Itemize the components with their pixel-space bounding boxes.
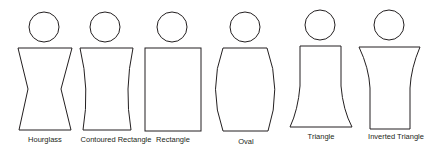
oval-body bbox=[216, 48, 275, 131]
figure-label: Rectangle bbox=[156, 135, 190, 144]
head-circle bbox=[90, 12, 120, 42]
head-circle bbox=[29, 12, 59, 42]
hourglass-body bbox=[18, 48, 72, 130]
head-circle bbox=[305, 10, 335, 40]
figure-rectangle: Rectangle bbox=[145, 12, 201, 144]
body-shapes-diagram: Hourglass Contoured Rectangle Rectangle … bbox=[0, 0, 438, 150]
head-circle bbox=[230, 12, 260, 42]
head-circle bbox=[374, 10, 404, 40]
figure-label: Contoured Rectangle bbox=[81, 135, 152, 144]
figure-label: Inverted Triangle bbox=[368, 132, 424, 141]
figure-label: Oval bbox=[238, 137, 254, 146]
figure-oval: Oval bbox=[216, 12, 275, 146]
figure-contoured-rectangle: Contoured Rectangle bbox=[80, 12, 151, 144]
contoured-rectangle-body bbox=[80, 48, 133, 130]
figure-inverted-triangle: Inverted Triangle bbox=[359, 10, 424, 141]
rectangle-body bbox=[145, 48, 201, 131]
triangle-body bbox=[290, 46, 352, 127]
head-circle bbox=[157, 12, 187, 42]
figure-label: Hourglass bbox=[28, 135, 62, 144]
figure-label: Triangle bbox=[308, 132, 335, 141]
inverted-triangle-body bbox=[359, 47, 420, 129]
figure-triangle: Triangle bbox=[290, 10, 352, 141]
figure-hourglass: Hourglass bbox=[18, 12, 72, 144]
